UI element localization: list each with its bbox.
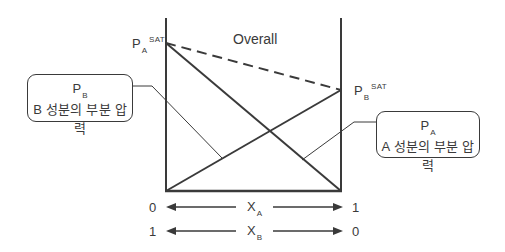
callout-a-p: P — [420, 118, 429, 133]
xa-left-value: 0 — [149, 201, 156, 214]
callout-a-leader — [302, 122, 376, 160]
callout-a-symbol: PA — [377, 118, 479, 135]
diagram-title: Overall — [233, 32, 277, 46]
xa-right-arrowhead-icon — [333, 203, 343, 211]
pa-sat-symbol: P — [132, 36, 141, 51]
callout-a-subscript: A — [430, 128, 435, 137]
pa-sat-label: PASAT — [132, 37, 165, 50]
xa-left-arrowhead-icon — [166, 203, 176, 211]
xb-right-arrowhead-icon — [333, 227, 343, 235]
pa-sat-subscript: A — [142, 46, 147, 55]
callout-a-partial-pressure: PA A 성분의 부분 압력 — [376, 111, 480, 158]
callout-b-text: B 성분의 부분 압력 — [28, 99, 132, 137]
callout-a-text: A 성분의 부분 압력 — [377, 136, 479, 174]
partial-pressure-a-line — [166, 43, 341, 191]
pb-sat-subscript: B — [364, 93, 369, 102]
callout-b-partial-pressure: PB B 성분의 부분 압력 — [27, 74, 133, 122]
callout-b-subscript: B — [82, 91, 87, 100]
pb-sat-superscript: SAT — [371, 82, 387, 91]
xa-symbol: X — [247, 199, 256, 214]
callout-b-p: P — [72, 81, 81, 96]
xa-right-value: 1 — [352, 201, 359, 214]
xa-subscript: A — [257, 209, 262, 218]
xb-left-arrowhead-icon — [166, 227, 176, 235]
callout-b-leader — [133, 86, 222, 158]
xb-subscript: B — [257, 233, 262, 242]
pb-sat-symbol: P — [354, 83, 363, 98]
callout-b-symbol: PB — [28, 81, 132, 98]
partial-pressure-b-line — [166, 90, 341, 191]
xb-right-value: 0 — [352, 225, 359, 238]
xa-label: XA — [247, 200, 262, 213]
pb-sat-label: PBSAT — [354, 84, 387, 97]
xb-left-value: 1 — [149, 225, 156, 238]
pa-sat-superscript: SAT — [149, 35, 165, 44]
xb-symbol: X — [247, 223, 256, 238]
xb-label: XB — [247, 224, 262, 237]
